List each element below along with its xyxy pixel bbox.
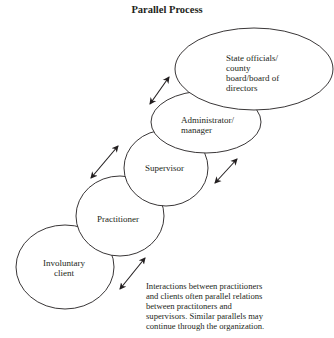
arrow-supervisor-administrator <box>215 159 237 183</box>
label-line: manager <box>181 125 234 135</box>
label-line: State officials/ <box>226 53 279 63</box>
label-line: client <box>38 268 90 278</box>
caption: Interactions between practitioners and c… <box>146 281 286 331</box>
node-client-label: Involuntary client <box>38 258 90 278</box>
label-line: Involuntary <box>38 258 90 268</box>
node-administrator-label: Administrator/ manager <box>181 115 234 135</box>
label-line: directors <box>226 83 279 93</box>
caption-line: supervisors. Similar parallels may <box>146 311 286 321</box>
label-line: Practitioner <box>97 214 139 224</box>
arrow-practitioner-supervisor <box>91 146 118 178</box>
arrow-state-administrator <box>150 77 169 104</box>
caption-line: and clients often parallel relations <box>146 291 286 301</box>
caption-line: Interactions between practitioners <box>146 281 286 291</box>
label-line: Supervisor <box>145 163 184 173</box>
node-supervisor-label: Supervisor <box>145 163 184 173</box>
arrow-client-practitioner <box>120 258 145 289</box>
caption-line: between practitoners and <box>146 301 286 311</box>
node-state-label: State officials/ county board/board of d… <box>226 53 279 93</box>
caption-line: continue through the organization. <box>146 321 286 331</box>
label-line: board/board of <box>226 73 279 83</box>
label-line: county <box>226 63 279 73</box>
node-practitioner-label: Practitioner <box>97 214 139 224</box>
label-line: Administrator/ <box>181 115 234 125</box>
